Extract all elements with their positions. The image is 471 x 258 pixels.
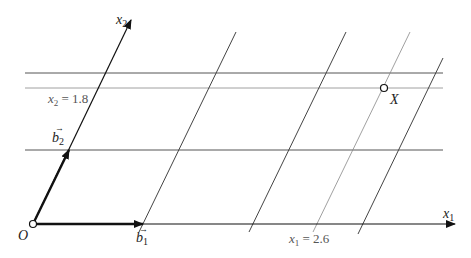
basis-diagram: O x1 x2 b1 → b2 → X x2 = 1.8 x1 = 2.6 bbox=[0, 0, 471, 258]
grid-line-x1-2.6 bbox=[313, 32, 410, 232]
x2-axis-label: x2 bbox=[115, 12, 127, 29]
point-x bbox=[381, 85, 388, 92]
origin-point bbox=[30, 221, 37, 228]
grid-line-x1-1 bbox=[139, 32, 236, 232]
grid-line-x1-2 bbox=[249, 32, 346, 232]
grid-line-x1-3 bbox=[358, 58, 443, 234]
x2-line-label: x2 = 1.8 bbox=[47, 91, 88, 108]
vector-b2 bbox=[33, 150, 69, 224]
x1-axis-label: x1 bbox=[442, 206, 454, 223]
b2-arrow-accent: → bbox=[55, 123, 64, 133]
origin-label: O bbox=[18, 228, 28, 243]
b1-arrow-accent: → bbox=[139, 224, 148, 234]
x1-line-label: x1 = 2.6 bbox=[288, 231, 330, 248]
point-x-label: X bbox=[389, 92, 399, 107]
